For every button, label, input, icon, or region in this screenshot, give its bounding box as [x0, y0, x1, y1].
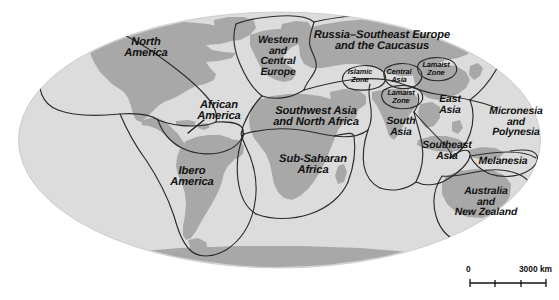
scale-bar: 0 3000 km: [466, 264, 552, 290]
map-canvas: [0, 0, 559, 300]
land-alaska: [68, 29, 100, 45]
world-culture-regions-map: North America African America Ibero Amer…: [0, 0, 559, 300]
land-new-zealand: [520, 204, 530, 218]
scale-bar-min-label: 0: [466, 264, 471, 274]
land-kamchatka: [461, 28, 482, 48]
scale-bar-max-label: 3000 km: [519, 264, 552, 274]
